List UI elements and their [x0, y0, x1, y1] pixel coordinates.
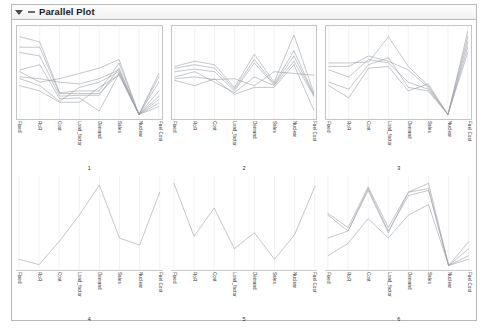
series-line	[175, 35, 314, 93]
series-line	[175, 65, 314, 110]
axis-tick-cost: Cost	[57, 121, 62, 131]
series-line	[20, 37, 159, 115]
axis-tick-cost: Cost	[57, 272, 62, 282]
axis-tick-demand: Demand	[251, 272, 256, 290]
axis-tick-fuel-cost: Fuel Cost	[312, 272, 317, 292]
axis-tick-nuclear: Nuclear	[446, 121, 451, 137]
series-line	[175, 56, 314, 95]
axis-tick-ror: RoR	[36, 272, 41, 281]
subplot-number: 2	[167, 166, 322, 171]
series-line	[20, 65, 159, 115]
axis-tick-fuel-cost: Fuel Cost	[466, 121, 471, 141]
plot-area	[325, 25, 472, 120]
axis-tick-demand: Demand	[406, 121, 411, 139]
axis-tick-ror: RoR	[346, 272, 351, 281]
parallel-plot-screen: FixedRoRCostLoad_factorDemandSalesNuclea…	[0, 0, 489, 332]
axis-tick-demand: Demand	[97, 121, 102, 139]
axis-tick-fuel-cost: Fuel Cost	[157, 121, 162, 141]
axis-tick-cost: Cost	[366, 272, 371, 282]
axis-tick-nuclear: Nuclear	[292, 272, 297, 288]
axis-tick-fuel-cost: Fuel Cost	[466, 272, 471, 292]
series-line	[174, 183, 315, 259]
series-line	[329, 52, 468, 114]
series-lines	[325, 176, 472, 270]
axis-tick-fixed: Fixed	[326, 121, 331, 132]
axis-tick-fixed: Fixed	[171, 121, 176, 132]
axis-tick-nuclear: Nuclear	[292, 121, 297, 137]
series-lines	[172, 26, 317, 119]
axis-tick-sales: Sales	[272, 272, 277, 284]
series-line	[20, 72, 159, 115]
axis-tick-sales: Sales	[117, 121, 122, 133]
subplot-number: 4	[12, 317, 167, 322]
axis-tick-fuel-cost: Fuel Cost	[157, 272, 162, 292]
axis-tick-nuclear: Nuclear	[137, 121, 142, 137]
subplot-number: 6	[321, 317, 476, 322]
axis-tick-nuclear: Nuclear	[137, 272, 142, 288]
axis-tick-fuel-cost: Fuel Cost	[312, 121, 317, 141]
axis-tick-sales: Sales	[426, 121, 431, 133]
series-line	[328, 183, 469, 265]
series-line	[329, 37, 468, 115]
series-line	[20, 70, 159, 115]
subplot-4[interactable]: FixedRoRCostLoad_factorDemandSalesNuclea…	[12, 172, 167, 323]
series-lines	[16, 176, 163, 270]
plot-area	[16, 176, 163, 271]
subplot-3[interactable]: FixedRoRCostLoad_factorDemandSalesNuclea…	[321, 21, 476, 172]
axis-tick-load-factor: Load_factor	[386, 121, 391, 146]
subplot-5[interactable]: FixedRoRCostLoad_factorDemandSalesNuclea…	[167, 172, 322, 323]
axis-tick-cost: Cost	[211, 121, 216, 131]
axis-tick-sales: Sales	[272, 121, 277, 133]
axis-tick-ror: RoR	[36, 121, 41, 130]
plot-area	[171, 25, 318, 120]
series-line	[20, 59, 159, 114]
axis-tick-fixed: Fixed	[326, 272, 331, 283]
parallel-plot-panel: FixedRoRCostLoad_factorDemandSalesNuclea…	[11, 4, 477, 321]
axis-tick-cost: Cost	[366, 121, 371, 131]
axis-tick-ror: RoR	[191, 272, 196, 281]
panel-header[interactable]: Parallel Plot	[11, 4, 477, 20]
axis-tick-ror: RoR	[191, 121, 196, 130]
series-lines	[17, 26, 162, 119]
axis-tick-cost: Cost	[211, 272, 216, 282]
plot-area	[171, 176, 318, 271]
axis-tick-nuclear: Nuclear	[446, 272, 451, 288]
page-title: Parallel Plot	[39, 7, 95, 17]
axis-tick-fixed: Fixed	[16, 121, 21, 132]
series-line	[19, 185, 160, 265]
plot-area	[325, 176, 472, 271]
axis-tick-load-factor: Load_factor	[77, 121, 82, 146]
dash-icon	[28, 11, 35, 13]
axis-tick-sales: Sales	[117, 272, 122, 284]
axis-tick-ror: RoR	[346, 121, 351, 130]
series-line	[329, 47, 468, 114]
series-lines	[326, 26, 471, 119]
axis-tick-fixed: Fixed	[171, 272, 176, 283]
axis-tick-load-factor: Load_factor	[231, 121, 236, 146]
subplot-number: 1	[12, 166, 167, 171]
plot-area	[16, 25, 163, 120]
series-line	[20, 52, 159, 114]
axis-tick-load-factor: Load_factor	[386, 272, 391, 297]
subplot-1[interactable]: FixedRoRCostLoad_factorDemandSalesNuclea…	[12, 21, 167, 172]
triangle-down-icon[interactable]	[15, 10, 23, 15]
axis-tick-load-factor: Load_factor	[231, 272, 236, 297]
axis-tick-demand: Demand	[251, 121, 256, 139]
axis-tick-sales: Sales	[426, 272, 431, 284]
subplot-6[interactable]: FixedRoRCostLoad_factorDemandSalesNuclea…	[321, 172, 476, 323]
axis-tick-demand: Demand	[406, 272, 411, 290]
subplot-grid: FixedRoRCostLoad_factorDemandSalesNuclea…	[12, 21, 476, 319]
axis-tick-fixed: Fixed	[16, 272, 21, 283]
axis-tick-demand: Demand	[97, 272, 102, 290]
subplot-2[interactable]: FixedRoRCostLoad_factorDemandSalesNuclea…	[167, 21, 322, 172]
series-lines	[171, 176, 318, 270]
subplot-number: 5	[167, 317, 322, 322]
axis-tick-load-factor: Load_factor	[77, 272, 82, 297]
subplot-number: 3	[321, 166, 476, 171]
